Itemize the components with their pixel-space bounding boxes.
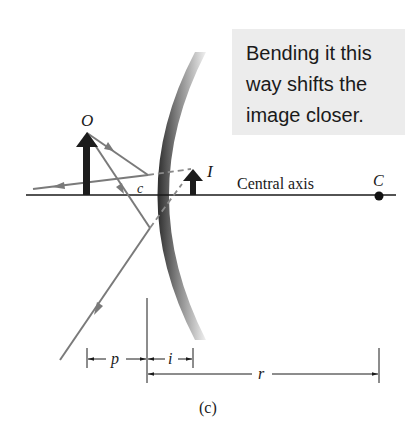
image-arrow-shaft [190,180,196,195]
center-of-curvature-label: C [373,172,384,189]
image-distance-label: i [168,350,172,367]
figure-part-label: (c) [199,399,217,417]
image-arrow-head [183,169,203,181]
ray-1-arrowhead [104,142,114,151]
center-of-curvature-point [375,192,384,201]
ray-1-reflected [33,175,148,189]
radius-label: r [258,365,265,382]
convex-mirror [158,52,207,340]
ray-2-arrowhead [116,183,124,194]
mirror-center-label: c [137,181,144,196]
central-axis-label: Central axis [237,175,314,192]
image-label: I [206,162,214,181]
ray-1-incident [87,133,148,175]
object-arrow-shaft [83,145,90,195]
callout-line-2: way shifts the [246,69,405,100]
callout-box: Bending it this way shifts the image clo… [232,29,405,135]
object-distance-label: p [110,350,119,368]
object-label: O [81,111,93,130]
callout-line-1: Bending it this [246,38,405,69]
callout-line-3: image closer. [246,100,405,131]
convex-mirror-diagram: O I C c Central axis p i r (c) Bending i… [0,0,414,444]
ray-2-reflected [60,228,150,360]
